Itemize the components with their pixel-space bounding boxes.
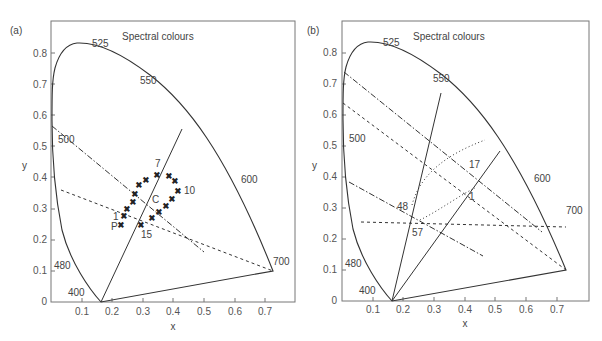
wavelength-700: 700 xyxy=(566,205,583,216)
point-label-17: 17 xyxy=(469,159,481,170)
dotted-curve-lower xyxy=(420,188,475,220)
x-tick: 0.6 xyxy=(519,304,533,315)
y-tick: 0.1 xyxy=(33,265,47,276)
panel-a-y-axis: 0 0.1 0.2 0.3 0.4 0.5 0.6 0.7 0.8 y xyxy=(22,48,55,307)
spectral-colours-label: Spectral colours xyxy=(122,31,194,42)
wavelength-700: 700 xyxy=(273,256,290,267)
point-label-1: 1 xyxy=(469,191,475,202)
cross-marker: × xyxy=(149,213,154,223)
y-tick: 0.8 xyxy=(33,48,47,59)
dash-dot-line xyxy=(52,126,204,252)
line-400-to-555 xyxy=(392,93,441,301)
panel-b-x-axis: 0.1 0.2 0.3 0.4 0.5 0.6 0.7 x xyxy=(366,297,564,329)
wavelength-480: 480 xyxy=(345,258,362,269)
panel-a: (a) 0 0.1 0.2 0.3 0.4 0.5 0.6 0.7 0.8 y … xyxy=(10,21,295,332)
wavelength-600: 600 xyxy=(241,174,258,185)
y-tick: 0.5 xyxy=(323,140,337,151)
point-label-57: 57 xyxy=(412,227,424,238)
x-tick: 0.6 xyxy=(228,306,242,317)
data-points: × × × × × × × × × × × × × × × × xyxy=(118,170,180,230)
panel-b-label: (b) xyxy=(307,25,319,36)
wavelength-500: 500 xyxy=(58,134,75,145)
x-tick: 0.4 xyxy=(458,304,472,315)
y-tick: 0.3 xyxy=(33,203,47,214)
y-tick: 0.5 xyxy=(33,141,47,152)
y-tick: 0 xyxy=(331,295,337,306)
panel-a-x-axis: 0.1 0.2 0.3 0.4 0.5 0.6 0.7 x xyxy=(75,298,272,332)
x-tick: 0.1 xyxy=(75,306,89,317)
wavelength-600: 600 xyxy=(534,173,551,184)
y-tick: 0.2 xyxy=(323,233,337,244)
cross-marker: × xyxy=(118,220,123,230)
chromaticity-figure: (a) 0 0.1 0.2 0.3 0.4 0.5 0.6 0.7 0.8 y … xyxy=(0,0,602,341)
x-tick: 0.1 xyxy=(366,304,380,315)
cross-marker: × xyxy=(143,175,148,185)
cross-marker: × xyxy=(172,176,177,186)
wavelength-550: 550 xyxy=(433,73,450,84)
cross-marker: × xyxy=(132,189,137,199)
point-label-7: 7 xyxy=(155,158,161,169)
y-tick: 0.7 xyxy=(323,78,337,89)
cross-marker: × xyxy=(169,194,174,204)
wavelength-500: 500 xyxy=(349,133,366,144)
x-tick: 0.5 xyxy=(488,304,502,315)
cross-marker: × xyxy=(166,171,171,181)
x-tick: 0.2 xyxy=(396,304,410,315)
y-axis-label: y xyxy=(312,160,317,171)
cross-marker: × xyxy=(154,170,159,180)
x-tick: 0.3 xyxy=(427,304,441,315)
spectral-locus xyxy=(52,43,273,302)
y-tick: 0.1 xyxy=(323,264,337,275)
cross-marker: × xyxy=(156,207,161,217)
dash-dot-line-lower xyxy=(349,182,483,256)
y-tick: 0.2 xyxy=(33,234,47,245)
cross-marker: × xyxy=(136,180,141,190)
wavelength-400: 400 xyxy=(68,287,85,298)
line-400-to-590 xyxy=(392,151,500,301)
y-tick: 0.6 xyxy=(323,109,337,120)
y-tick: 0.8 xyxy=(323,47,337,58)
point-label-P: P xyxy=(111,221,118,232)
spectral-locus xyxy=(343,42,566,301)
x-axis-label: x xyxy=(171,321,176,332)
x-axis-label: x xyxy=(463,318,468,329)
wavelength-525: 525 xyxy=(92,38,109,49)
panel-b: (b) 0 0.1 0.2 0.3 0.4 0.5 0.6 0.7 0.8 y … xyxy=(307,21,589,329)
y-tick: 0.7 xyxy=(33,79,47,90)
wavelength-480: 480 xyxy=(54,260,71,271)
cross-marker: × xyxy=(163,201,168,211)
spectral-colours-label: Spectral colours xyxy=(413,31,485,42)
y-tick: 0.6 xyxy=(33,110,47,121)
x-tick: 0.7 xyxy=(258,306,272,317)
y-tick: 0 xyxy=(41,296,47,307)
panel-a-frame xyxy=(51,21,295,302)
x-tick: 0.3 xyxy=(136,306,150,317)
wavelength-550: 550 xyxy=(140,75,157,86)
y-tick: 0.4 xyxy=(33,172,47,183)
y-tick: 0.3 xyxy=(323,202,337,213)
cross-marker: × xyxy=(124,204,129,214)
x-tick: 0.2 xyxy=(105,306,119,317)
panel-b-y-axis: 0 0.1 0.2 0.3 0.4 0.5 0.6 0.7 0.8 y xyxy=(312,47,346,306)
x-tick: 0.4 xyxy=(166,306,180,317)
cross-marker: × xyxy=(175,186,180,196)
wavelength-525: 525 xyxy=(383,37,400,48)
y-tick: 0.4 xyxy=(323,171,337,182)
x-tick: 0.5 xyxy=(197,306,211,317)
point-label-48: 48 xyxy=(397,201,409,212)
y-axis-label: y xyxy=(22,160,27,171)
dashed-line-upper xyxy=(343,103,566,270)
dash-dot-line-upper xyxy=(344,72,542,232)
point-label-10: 10 xyxy=(184,185,196,196)
point-label-15: 15 xyxy=(141,229,153,240)
panel-a-label: (a) xyxy=(10,25,22,36)
wavelength-400: 400 xyxy=(359,285,376,296)
white-point-C: C xyxy=(152,194,159,205)
x-tick: 0.7 xyxy=(550,304,564,315)
